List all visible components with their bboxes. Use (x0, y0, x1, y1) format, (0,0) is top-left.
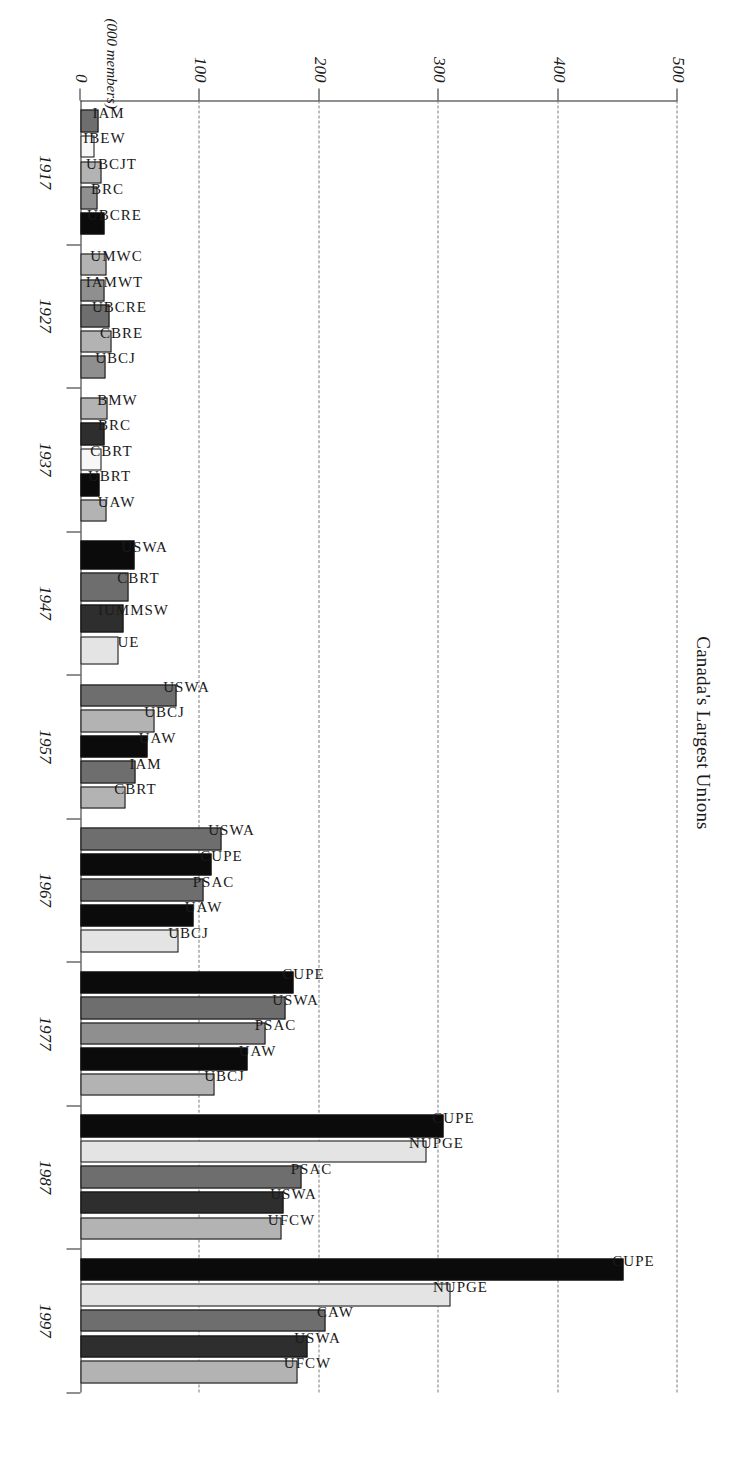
category-label-1957: 1957 (34, 729, 54, 763)
bar-1967-CUPE (80, 853, 211, 875)
bar-label-1927-IAMWT: IAMWT (85, 273, 143, 290)
bar-1947-UE (80, 636, 118, 664)
value-tick-label-100: 100 (189, 57, 209, 83)
value-tick-400 (557, 88, 558, 100)
bar-1967-UBCJ (80, 929, 178, 951)
bar-1977-PSAC (80, 1022, 265, 1044)
bar-1997-CAW (80, 1309, 325, 1331)
bar-label-1937-CBRT: CBRT (90, 442, 132, 459)
bar-label-1987-USWA: USWA (270, 1185, 317, 1202)
category-tick-1997 (66, 1392, 80, 1393)
bar-label-1937-UAW: UAW (97, 493, 135, 510)
bar-label-1927-UBCRE: UBCRE (91, 298, 146, 315)
bar-label-1917-UBCRE: UBCRE (86, 206, 141, 223)
bar-label-1987-NUPGE: NUPGE (409, 1134, 464, 1151)
category-tick-1977 (66, 1105, 80, 1106)
bar-1987-CUPE (80, 1114, 443, 1136)
value-tick-500 (676, 88, 677, 100)
bar-label-1957-CBRT: CBRT (114, 780, 156, 797)
bar-1977-CUPE (80, 971, 293, 993)
bar-label-1977-UBCJ: UBCJ (203, 1067, 244, 1084)
figure: Canada's Largest Unions (000 members) 01… (0, 0, 731, 1465)
bar-label-1997-USWA: USWA (294, 1329, 341, 1346)
bar-label-1927-UBCJ: UBCJ (95, 349, 136, 366)
bar-1977-USWA (80, 996, 285, 1018)
category-label-1937: 1937 (34, 442, 54, 476)
bar-label-1937-BMW: BMW (97, 391, 138, 408)
bar-label-1997-CAW: CAW (316, 1303, 353, 1320)
value-tick-label-300: 300 (428, 57, 448, 83)
bar-label-1967-UAW: UAW (185, 898, 223, 915)
bar-label-1967-UBCJ: UBCJ (168, 924, 209, 941)
bar-1987-NUPGE (80, 1140, 426, 1162)
category-label-1997: 1997 (34, 1303, 54, 1337)
bar-1957-UAW (80, 735, 147, 757)
bar-label-1977-UAW: UAW (238, 1042, 276, 1059)
bar-label-1927-UMWC: UMWC (90, 247, 142, 264)
bar-label-1957-IAM: IAM (129, 755, 161, 772)
category-tick-1937 (66, 531, 80, 532)
category-tick-1927 (66, 387, 80, 388)
category-tick-1917 (66, 244, 80, 245)
value-tick-label-500: 500 (667, 57, 687, 83)
bar-1967-USWA (80, 827, 221, 849)
rotated-figure: Canada's Largest Unions (000 members) 01… (0, 0, 731, 1465)
bar-1997-CUPE (80, 1258, 623, 1280)
bar-label-1987-UFCW: UFCW (267, 1211, 314, 1228)
value-tick-100 (198, 88, 199, 100)
bar-1997-NUPGE (80, 1283, 450, 1305)
category-label-1977: 1977 (34, 1016, 54, 1050)
value-tick-300 (437, 88, 438, 100)
bar-1957-IAM (80, 760, 135, 782)
bar-label-1967-USWA: USWA (208, 821, 255, 838)
bar-label-1957-UAW: UAW (138, 729, 176, 746)
bar-1997-USWA (80, 1335, 307, 1357)
value-tick-label-400: 400 (548, 57, 568, 83)
category-label-1947: 1947 (34, 585, 54, 619)
bar-label-1967-CUPE: CUPE (200, 847, 242, 864)
bar-label-1957-UBCJ: UBCJ (144, 703, 185, 720)
category-label-1917: 1917 (34, 155, 54, 189)
plot-area: 0100200300400500 19171927193719471957196… (80, 100, 677, 1392)
bar-label-1967-PSAC: PSAC (192, 873, 234, 890)
bar-label-1957-USWA: USWA (162, 678, 209, 695)
value-tick-200 (318, 88, 319, 100)
bar-1967-PSAC (80, 878, 203, 900)
value-tick-label-200: 200 (309, 57, 329, 83)
bar-label-1927-CBRE: CBRE (99, 324, 142, 341)
category-tick-1987 (66, 1248, 80, 1249)
bar-label-1987-PSAC: PSAC (290, 1160, 332, 1177)
value-axis-caption: (000 members) (102, 18, 119, 108)
page-title: Canada's Largest Unions (691, 0, 713, 1465)
category-tick-1967 (66, 961, 80, 962)
bar-label-1997-NUPGE: NUPGE (433, 1278, 488, 1295)
bar-label-1987-CUPE: CUPE (432, 1109, 474, 1126)
bar-label-1997-CUPE: CUPE (612, 1252, 654, 1269)
bar-label-1977-PSAC: PSAC (254, 1016, 296, 1033)
bar-1957-UBCJ (80, 709, 154, 731)
category-label-1987: 1987 (34, 1160, 54, 1194)
bar-label-1937-BRC: BRC (97, 416, 130, 433)
bar-label-1947-USWA: USWA (120, 538, 167, 555)
bar-label-1977-CUPE: CUPE (281, 965, 323, 982)
category-label-1967: 1967 (34, 873, 54, 907)
bar-1987-USWA (80, 1191, 283, 1213)
category-tick-1947 (66, 674, 80, 675)
bar-label-1947-CBRT: CBRT (117, 569, 159, 586)
value-tick-0 (79, 88, 80, 100)
category-label-1927: 1927 (34, 298, 54, 332)
value-tick-label-0: 0 (70, 74, 90, 83)
bar-label-1917-IAM: IAM (92, 104, 124, 121)
bar-label-1947-IUMMSW: IUMMSW (97, 601, 168, 618)
bar-label-1997-UFCW: UFCW (284, 1354, 331, 1371)
chart-canvas: Canada's Largest Unions (000 members) 01… (0, 0, 731, 1465)
bar-1997-UFCW (80, 1360, 297, 1382)
bar-label-1917-UBCJT: UBCJT (86, 155, 137, 172)
bar-1987-PSAC (80, 1165, 301, 1187)
bar-label-1937-UBRT: UBRT (88, 467, 131, 484)
bar-label-1977-USWA: USWA (272, 991, 319, 1008)
bar-1987-UFCW (80, 1217, 281, 1239)
bar-1977-UBCJ (80, 1073, 214, 1095)
bar-1967-UAW (80, 904, 193, 926)
bar-label-1917-BRC: BRC (90, 180, 123, 197)
